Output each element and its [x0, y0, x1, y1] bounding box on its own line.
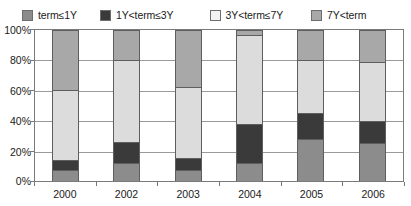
x-axis-label-2006: 2006 — [342, 187, 404, 203]
bar-slot-2003 — [158, 30, 219, 181]
legend-swatch-icon-1 — [100, 10, 111, 21]
legend-item-3y-to-7y[interactable]: 3Y<term≤7Y — [210, 6, 284, 24]
y-axis-label-0: 0% — [16, 176, 31, 187]
bars-container — [35, 30, 403, 181]
y-axis-label-60: 60% — [10, 85, 31, 96]
x-axis: 2000 2002 2003 2004 2005 2006 — [34, 187, 404, 203]
bar-segment[interactable] — [237, 163, 262, 181]
bar-segment[interactable] — [298, 113, 323, 139]
x-axis-tick-0 — [34, 182, 35, 186]
legend-swatch-icon-2 — [210, 10, 221, 21]
bar-segment[interactable] — [360, 143, 385, 181]
x-axis-label-2003: 2003 — [157, 187, 219, 203]
bar-2002[interactable] — [113, 30, 140, 181]
bar-segment[interactable] — [114, 163, 139, 181]
bar-segment[interactable] — [237, 124, 262, 163]
x-axis-label-2004: 2004 — [219, 187, 281, 203]
bar-segment[interactable] — [176, 170, 201, 181]
bar-segment[interactable] — [298, 30, 323, 60]
bar-segment[interactable] — [176, 30, 201, 87]
bar-2004[interactable] — [236, 30, 263, 181]
bar-2000[interactable] — [52, 30, 79, 181]
legend-item-1y-to-3y[interactable]: 1Y<term≤3Y — [100, 6, 174, 24]
bar-segment[interactable] — [114, 142, 139, 163]
bar-segment[interactable] — [53, 160, 78, 171]
bar-slot-2002 — [96, 30, 157, 181]
bar-slot-2004 — [219, 30, 280, 181]
x-axis-tick-2 — [157, 182, 158, 186]
y-axis-label-80: 80% — [10, 55, 31, 66]
y-axis: 100% 80% 60% 40% 20% 0% — [0, 29, 31, 182]
chart-legend: term≤1Y 1Y<term≤3Y 3Y<term≤7Y 7Y<term — [0, 6, 411, 24]
plot-area — [34, 29, 404, 182]
chart-root: term≤1Y 1Y<term≤3Y 3Y<term≤7Y 7Y<term 10… — [0, 0, 411, 206]
legend-label-0: term≤1Y — [38, 9, 77, 21]
legend-label-1: 1Y<term≤3Y — [116, 9, 174, 21]
legend-item-7y-plus[interactable]: 7Y<term — [311, 6, 366, 24]
x-axis-tick-5 — [342, 182, 343, 186]
legend-item-term-le-1y[interactable]: term≤1Y — [22, 6, 77, 24]
legend-swatch-icon-3 — [311, 10, 322, 21]
x-axis-tick-1 — [96, 182, 97, 186]
bar-segment[interactable] — [298, 60, 323, 113]
bar-segment[interactable] — [53, 30, 78, 90]
bar-slot-2000 — [35, 30, 96, 181]
bar-slot-2005 — [280, 30, 341, 181]
plot-wrapper — [34, 29, 404, 182]
x-axis-label-2005: 2005 — [281, 187, 343, 203]
y-axis-label-40: 40% — [10, 116, 31, 127]
x-axis-label-2002: 2002 — [96, 187, 158, 203]
bar-segment[interactable] — [176, 87, 201, 158]
bar-2003[interactable] — [175, 30, 202, 181]
bar-segment[interactable] — [237, 35, 262, 124]
x-axis-tick-4 — [281, 182, 282, 186]
legend-label-2: 3Y<term≤7Y — [226, 9, 284, 21]
bar-segment[interactable] — [360, 30, 385, 62]
y-axis-label-100: 100% — [4, 25, 31, 36]
x-axis-tick-6 — [404, 182, 405, 186]
bar-segment[interactable] — [360, 121, 385, 144]
bar-segment[interactable] — [176, 158, 201, 170]
bar-segment[interactable] — [298, 139, 323, 181]
bar-slot-2006 — [342, 30, 403, 181]
bar-segment[interactable] — [114, 60, 139, 142]
y-axis-label-20: 20% — [10, 146, 31, 157]
bar-segment[interactable] — [114, 30, 139, 60]
bar-2006[interactable] — [359, 30, 386, 181]
x-axis-tick-3 — [219, 182, 220, 186]
legend-swatch-icon-0 — [22, 10, 33, 21]
bar-segment[interactable] — [53, 170, 78, 181]
bar-segment[interactable] — [360, 62, 385, 121]
legend-label-3: 7Y<term — [327, 9, 366, 21]
bar-segment[interactable] — [53, 90, 78, 159]
x-axis-label-2000: 2000 — [34, 187, 96, 203]
bar-2005[interactable] — [297, 30, 324, 181]
